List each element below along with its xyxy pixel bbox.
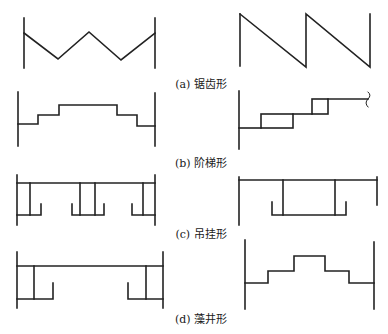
panel-d-left-hangers	[17, 252, 163, 308]
caption-a: (a) 锯齿形	[175, 75, 227, 91]
panel-a-right-sawtooth	[240, 14, 370, 67]
caption-b: (b) 阶梯形	[175, 154, 227, 170]
panel-d-right-coffered	[245, 240, 374, 309]
panel-a-left-zigzag	[24, 18, 155, 68]
panel-c-right-hanger	[239, 177, 377, 225]
caption-d: (d) 藻井形	[175, 310, 227, 326]
panel-b-right-stepped-boxes	[239, 91, 370, 149]
panel-c-left-hangers	[17, 175, 155, 225]
caption-c: (c) 吊挂形	[175, 225, 226, 241]
panel-b-left-stepped	[18, 92, 155, 146]
